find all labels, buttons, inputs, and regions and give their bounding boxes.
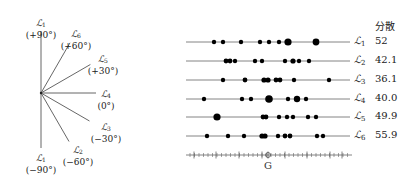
variance-value: 52 xyxy=(375,35,388,46)
fan-ray-label: ℒ6(+60°) xyxy=(58,29,94,51)
data-point xyxy=(278,78,283,83)
data-point xyxy=(242,134,246,138)
data-point xyxy=(243,78,248,83)
data-point xyxy=(283,59,287,63)
data-point xyxy=(291,115,295,119)
data-point xyxy=(221,40,225,44)
data-point xyxy=(228,59,233,64)
data-point xyxy=(260,59,264,63)
data-point xyxy=(239,40,243,44)
variance-value: 55.9 xyxy=(375,129,397,140)
fan-ray xyxy=(41,93,69,141)
data-point xyxy=(265,95,273,103)
data-point xyxy=(313,39,320,46)
data-point xyxy=(267,40,271,44)
data-point xyxy=(277,40,281,44)
data-point xyxy=(292,78,296,82)
row-line-label: ℒ6 xyxy=(354,129,365,142)
data-point xyxy=(233,59,237,63)
data-point xyxy=(315,134,319,138)
data-point xyxy=(307,59,311,63)
data-point xyxy=(226,134,230,138)
variance-value: 40.0 xyxy=(375,92,397,103)
fan-origin xyxy=(40,92,42,94)
fan-ray xyxy=(41,65,90,94)
data-point xyxy=(294,96,300,102)
fan-ray-label: ℒ2(−60°) xyxy=(60,145,96,167)
data-point xyxy=(285,115,289,119)
data-point xyxy=(277,115,281,119)
data-point xyxy=(221,78,225,82)
data-point xyxy=(202,97,206,101)
variance-value: 36.1 xyxy=(375,73,397,84)
data-point xyxy=(304,97,308,101)
data-point xyxy=(212,40,216,44)
data-point xyxy=(321,134,325,138)
data-point xyxy=(283,134,288,139)
fan-ray xyxy=(41,93,89,121)
row-line-label: ℒ3 xyxy=(354,73,365,86)
data-point xyxy=(288,134,293,139)
data-point xyxy=(306,115,310,119)
data-point xyxy=(258,40,262,44)
row-line-label: ℒ5 xyxy=(354,110,365,123)
row-line-label: ℒ4 xyxy=(354,92,365,105)
fan-ray-label: ℒ5(+30°) xyxy=(85,54,121,76)
row-line-label: ℒ1 xyxy=(354,35,365,48)
fan-ray-label: ℒ4(0°) xyxy=(88,89,124,111)
row-line-label: ℒ2 xyxy=(354,54,365,67)
data-point xyxy=(264,115,269,120)
centroid-label: G xyxy=(264,160,272,171)
data-point xyxy=(249,97,253,101)
data-point xyxy=(240,97,244,101)
data-point xyxy=(276,134,280,138)
data-point xyxy=(290,58,295,63)
data-point xyxy=(297,59,301,63)
data-point xyxy=(205,134,209,138)
variance-header: 分散 xyxy=(375,18,395,33)
variance-value: 42.1 xyxy=(375,54,397,65)
fan-ray-label: ℒ1(+90°) xyxy=(23,18,59,40)
data-point xyxy=(253,59,257,63)
data-point xyxy=(327,78,331,82)
data-point xyxy=(213,113,220,120)
data-point xyxy=(284,38,291,45)
variance-value: 49.9 xyxy=(375,110,397,121)
data-point xyxy=(286,97,290,101)
data-point xyxy=(314,115,318,119)
data-point xyxy=(262,133,267,138)
fan-ray-label: ℒ1(−90°) xyxy=(23,153,59,175)
fan-ray-label: ℒ3(−30°) xyxy=(88,122,124,144)
data-point xyxy=(265,77,270,82)
